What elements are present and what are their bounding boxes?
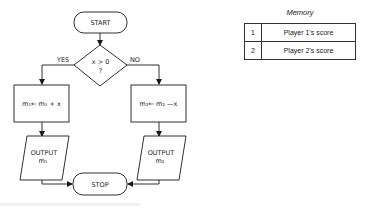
memory-index: 2 bbox=[245, 42, 262, 60]
no-label: NO bbox=[130, 56, 140, 64]
process-right-text: m₂← m₂ —x bbox=[140, 100, 178, 108]
output-left-var: m₁ bbox=[39, 157, 48, 165]
memory-row: 2 Player 2's score bbox=[245, 42, 356, 60]
output-right-var: m₂ bbox=[156, 157, 165, 165]
process-left-text: m₁← m₁ + x bbox=[22, 100, 61, 108]
scan-artifact-band bbox=[0, 203, 140, 206]
memory-value: Player 1's score bbox=[262, 24, 356, 42]
decision-question-mark: ? bbox=[99, 67, 102, 75]
output-right-label: OUTPUT bbox=[148, 149, 175, 157]
memory-row: 1 Player 1's score bbox=[245, 24, 356, 42]
memory-table: 1 Player 1's score 2 Player 2's score bbox=[244, 23, 356, 60]
memory-index: 1 bbox=[245, 24, 262, 42]
memory-title: Memory bbox=[244, 8, 356, 17]
start-label: START bbox=[90, 19, 110, 27]
output-left-label: OUTPUT bbox=[31, 149, 58, 157]
stop-label: STOP bbox=[91, 181, 108, 189]
decision-condition: x > 0 bbox=[92, 58, 110, 66]
memory-value: Player 2's score bbox=[262, 42, 356, 60]
yes-label: YES bbox=[56, 56, 69, 64]
